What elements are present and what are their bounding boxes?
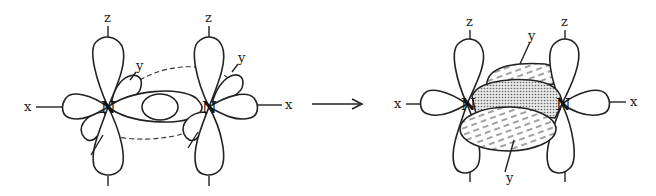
left-panel-separate-orbitals: z x y z x y N N xyxy=(24,10,293,186)
bonded-left-z-label: z xyxy=(466,14,473,29)
bonded-nitrogen-left: N xyxy=(461,95,476,114)
right-panel-bonded-orbitals: z z x x y y N N xyxy=(394,14,638,185)
reaction-arrow xyxy=(312,99,362,109)
right-z-axis-label: z xyxy=(205,10,212,25)
orbital-overlap-diagram: z x y z x y N N xyxy=(0,0,656,196)
bonded-top-y-label: y xyxy=(527,28,536,43)
sigma-overlap-center xyxy=(142,94,178,120)
right-x-axis-label: x xyxy=(285,97,293,112)
nitrogen-atom-right: N xyxy=(202,98,217,117)
left-y-axis-label: y xyxy=(135,58,144,73)
right-y-axis-label: y xyxy=(237,50,246,65)
bonded-bottom-y-label: y xyxy=(505,170,514,185)
bonded-right-z-label: z xyxy=(561,14,568,29)
bonded-nitrogen-right: N xyxy=(556,95,571,114)
nitrogen-atom-left: N xyxy=(101,98,116,117)
bonded-left-x-label: x xyxy=(394,96,402,111)
left-x-axis-label: x xyxy=(24,99,32,114)
left-z-axis-label: z xyxy=(104,10,111,25)
bonded-right-x-label: x xyxy=(630,94,638,109)
